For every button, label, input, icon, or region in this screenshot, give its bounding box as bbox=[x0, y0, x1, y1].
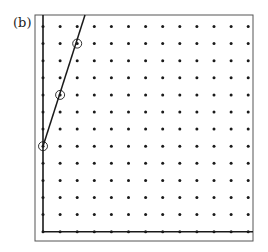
grid-dot bbox=[178, 162, 181, 165]
grid-dot bbox=[230, 42, 233, 45]
grid-dot bbox=[213, 76, 216, 79]
grid-dot bbox=[76, 128, 79, 131]
grid-dot bbox=[127, 213, 130, 216]
grid-dot bbox=[127, 59, 130, 62]
grid-dot bbox=[247, 196, 250, 199]
grid-dot bbox=[230, 213, 233, 216]
grid-dot bbox=[93, 25, 96, 28]
diagram-frame bbox=[35, 15, 253, 241]
grid-dot bbox=[59, 25, 62, 28]
grid-dot bbox=[110, 93, 113, 96]
grid-dot bbox=[93, 128, 96, 131]
grid-dot bbox=[178, 145, 181, 148]
grid-dot bbox=[42, 230, 45, 233]
grid-dot bbox=[110, 76, 113, 79]
grid-dot bbox=[127, 196, 130, 199]
grid-dot bbox=[59, 128, 62, 131]
grid-dot bbox=[76, 230, 79, 233]
grid-dot bbox=[42, 196, 45, 199]
grid-dot bbox=[161, 111, 164, 114]
grid-dot bbox=[110, 196, 113, 199]
grid-dot bbox=[93, 59, 96, 62]
grid-dot bbox=[247, 162, 250, 165]
dot-grid bbox=[42, 25, 250, 233]
grid-dot bbox=[93, 42, 96, 45]
grid-dot bbox=[195, 179, 198, 182]
grid-dot bbox=[178, 111, 181, 114]
grid-dot bbox=[195, 111, 198, 114]
grid-dot bbox=[127, 128, 130, 131]
grid-dot bbox=[247, 25, 250, 28]
grid-dot bbox=[247, 230, 250, 233]
grid-dot bbox=[144, 145, 147, 148]
grid-dot bbox=[42, 128, 45, 131]
grid-dot bbox=[76, 179, 79, 182]
grid-dot bbox=[76, 111, 79, 114]
grid-dot bbox=[230, 230, 233, 233]
grid-dot bbox=[178, 59, 181, 62]
grid-dot bbox=[42, 42, 45, 45]
grid-dot bbox=[110, 145, 113, 148]
grid-dot bbox=[144, 128, 147, 131]
grid-dot bbox=[59, 196, 62, 199]
grid-dot bbox=[161, 25, 164, 28]
grid-dot bbox=[161, 145, 164, 148]
grid-dot bbox=[144, 230, 147, 233]
grid-dot bbox=[178, 230, 181, 233]
grid-dot bbox=[59, 145, 62, 148]
grid-dot bbox=[178, 128, 181, 131]
grid-dot bbox=[144, 76, 147, 79]
sloped-line bbox=[43, 15, 85, 146]
grid-dot bbox=[230, 25, 233, 28]
grid-dot bbox=[127, 145, 130, 148]
grid-dot bbox=[76, 213, 79, 216]
grid-dot bbox=[59, 76, 62, 79]
geoboard-diagram: (b) bbox=[0, 0, 268, 252]
grid-dot bbox=[247, 93, 250, 96]
grid-dot bbox=[213, 230, 216, 233]
grid-dot bbox=[144, 25, 147, 28]
grid-dot bbox=[144, 59, 147, 62]
grid-dot bbox=[213, 145, 216, 148]
grid-dot bbox=[195, 93, 198, 96]
grid-dot bbox=[144, 196, 147, 199]
grid-dot bbox=[42, 179, 45, 182]
grid-dot bbox=[93, 111, 96, 114]
grid-dot bbox=[59, 42, 62, 45]
grid-dot bbox=[127, 162, 130, 165]
grid-dot bbox=[76, 196, 79, 199]
grid-dot bbox=[247, 213, 250, 216]
grid-dot bbox=[247, 42, 250, 45]
grid-dot bbox=[230, 93, 233, 96]
grid-dot bbox=[247, 179, 250, 182]
grid-dot bbox=[161, 230, 164, 233]
grid-dot bbox=[195, 213, 198, 216]
slope-line bbox=[43, 15, 85, 146]
grid-dot bbox=[178, 25, 181, 28]
grid-dot bbox=[93, 213, 96, 216]
grid-dot bbox=[195, 162, 198, 165]
grid-dot bbox=[127, 25, 130, 28]
grid-dot bbox=[144, 42, 147, 45]
grid-dot bbox=[230, 59, 233, 62]
grid-dot bbox=[76, 145, 79, 148]
grid-dot bbox=[213, 162, 216, 165]
grid-dot bbox=[178, 42, 181, 45]
grid-dot bbox=[59, 162, 62, 165]
grid-dot bbox=[110, 230, 113, 233]
grid-dot bbox=[247, 128, 250, 131]
grid-dot bbox=[127, 76, 130, 79]
grid-dot bbox=[76, 93, 79, 96]
grid-dot bbox=[110, 213, 113, 216]
grid-dot bbox=[110, 111, 113, 114]
grid-dot bbox=[161, 76, 164, 79]
grid-dot bbox=[213, 111, 216, 114]
grid-dot bbox=[59, 230, 62, 233]
grid-dot bbox=[127, 179, 130, 182]
grid-dot bbox=[42, 162, 45, 165]
grid-dot bbox=[161, 42, 164, 45]
grid-dot bbox=[42, 59, 45, 62]
grid-dot bbox=[178, 76, 181, 79]
grid-dot bbox=[76, 25, 79, 28]
grid-dot bbox=[127, 230, 130, 233]
